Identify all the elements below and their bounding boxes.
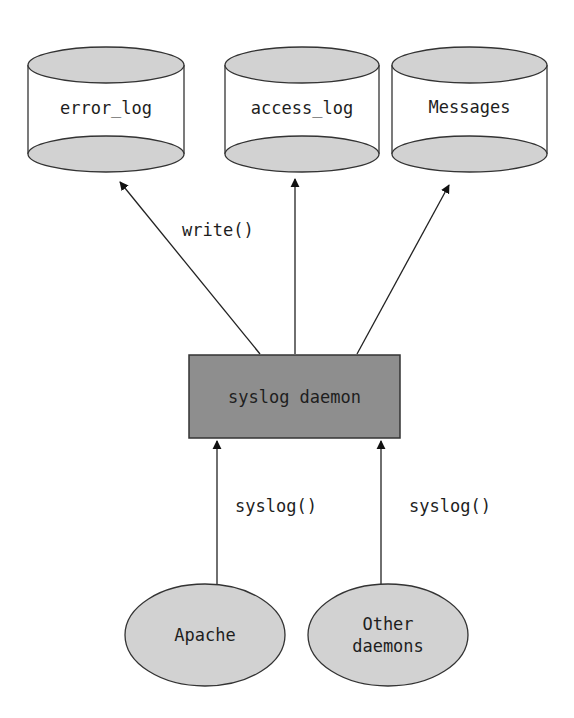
source-label-line1: Other — [362, 614, 413, 634]
syslog-diagram: error_log access_log Messages write() sy… — [0, 0, 574, 718]
source-other-daemons: Other daemons — [308, 584, 468, 686]
source-apache: Apache — [125, 584, 285, 686]
syslog-label-right: syslog() — [409, 496, 491, 516]
source-label: Apache — [174, 625, 235, 645]
store-error-log: error_log — [28, 47, 184, 172]
source-label-line2: daemons — [352, 636, 424, 656]
write-label: write() — [182, 220, 254, 240]
store-label: access_log — [251, 98, 353, 118]
syslog-label-left: syslog() — [235, 496, 317, 516]
daemon-label: syslog daemon — [228, 387, 361, 407]
arrow-to-error-log — [120, 182, 260, 354]
store-access-log: access_log — [225, 47, 379, 172]
arrow-to-messages — [357, 185, 449, 354]
store-label: error_log — [60, 98, 152, 118]
store-messages: Messages — [392, 47, 547, 172]
syslog-daemon-box: syslog daemon — [189, 355, 400, 438]
store-label: Messages — [429, 97, 511, 117]
